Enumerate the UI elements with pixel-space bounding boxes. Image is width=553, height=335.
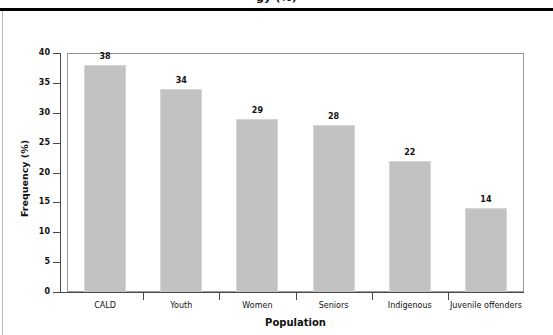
bar-slot: 34: [143, 53, 219, 292]
x-axis-tick: [372, 292, 373, 300]
bar[interactable]: 22: [389, 161, 431, 292]
bar[interactable]: 14: [465, 208, 507, 292]
bar-value-label: 29: [237, 107, 277, 115]
y-axis-tick: [53, 202, 60, 203]
y-axis-tick: [53, 173, 60, 174]
y-axis-tick: [53, 143, 60, 144]
bar-slot: 28: [296, 53, 372, 292]
y-axis-tick: [53, 232, 60, 233]
x-axis-category-label: Juvenile offenders: [448, 302, 524, 310]
page-canvas: gy (%) 0510152025303540 Frequency (%) 38…: [0, 0, 553, 335]
x-axis-tick: [143, 292, 144, 300]
clipped-page-heading: gy (%): [0, 0, 553, 5]
y-axis-tick: [53, 83, 60, 84]
bar-series: 383429282214: [67, 53, 524, 292]
bar-value-label: 22: [390, 149, 430, 157]
bar[interactable]: 38: [84, 65, 126, 292]
bar-slot: 22: [372, 53, 448, 292]
bar-value-label: 28: [314, 113, 354, 121]
x-axis-category-label: Seniors: [296, 302, 372, 310]
bar[interactable]: 29: [236, 119, 278, 292]
x-axis-title: Population: [67, 317, 524, 328]
bar-value-label: 38: [85, 53, 125, 61]
y-axis-tick: [53, 262, 60, 263]
x-axis-tick: [448, 292, 449, 300]
x-axis-category-label: Women: [219, 302, 295, 310]
y-axis-tick-label: 35: [24, 79, 50, 87]
y-axis-line: [60, 53, 61, 293]
y-axis-tick-label: 5: [24, 258, 50, 266]
bar-value-label: 34: [161, 77, 201, 85]
y-axis-tick-label: 0: [24, 288, 50, 296]
bar[interactable]: 28: [313, 125, 355, 292]
bar-slot: 14: [448, 53, 524, 292]
x-axis-category-label: Youth: [143, 302, 219, 310]
y-axis-tick-label: 40: [24, 49, 50, 57]
y-axis-tick-label: 30: [24, 109, 50, 117]
bar[interactable]: 34: [160, 89, 202, 292]
x-axis-category-label: CALD: [67, 302, 143, 310]
bar-value-label: 14: [466, 196, 506, 204]
x-axis-category-label: Indigenous: [372, 302, 448, 310]
bar-slot: 29: [219, 53, 295, 292]
y-axis-tick: [53, 292, 60, 293]
y-axis-title: Frequency (%): [19, 119, 30, 239]
x-axis-tick: [296, 292, 297, 300]
bar-slot: 38: [67, 53, 143, 292]
y-axis-tick: [53, 53, 60, 54]
x-axis-baseline: [60, 292, 524, 293]
x-axis-tick: [219, 292, 220, 300]
y-axis-tick: [53, 113, 60, 114]
bar-chart: 0510152025303540 Frequency (%) 383429282…: [0, 11, 553, 335]
